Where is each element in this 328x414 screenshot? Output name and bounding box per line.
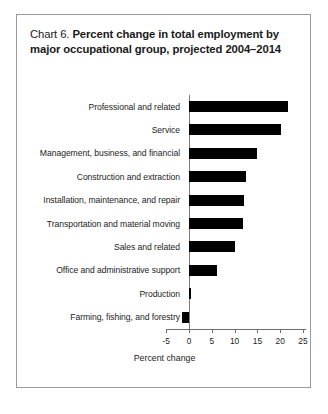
bar-row (17, 95, 312, 118)
bars-container (17, 95, 312, 330)
bar-row (17, 282, 312, 305)
bar-row (17, 165, 312, 188)
axis-tick (303, 329, 304, 333)
bar-row (17, 235, 312, 258)
bar-row (17, 142, 312, 165)
bar-row (17, 212, 312, 235)
bar (189, 241, 235, 252)
bar (189, 148, 257, 159)
axis-tick-label: 10 (223, 336, 247, 346)
bar-row (17, 306, 312, 329)
bar (189, 288, 191, 299)
bar (189, 218, 243, 229)
bar (189, 124, 281, 135)
axis-tick (235, 329, 236, 333)
axis-tick-label: 5 (200, 336, 224, 346)
bar (189, 171, 246, 182)
value-axis-title: Percent change (17, 353, 312, 363)
axis-tick-label: 0 (177, 336, 201, 346)
bar (189, 195, 244, 206)
value-axis-line (166, 329, 306, 330)
axis-tick (257, 329, 258, 333)
axis-tick-label: -5 (154, 336, 178, 346)
bar-row (17, 189, 312, 212)
plot-area: Professional and relatedServiceManagemen… (17, 15, 312, 389)
bar-row (17, 259, 312, 282)
bar (189, 101, 288, 112)
axis-tick-label: 20 (268, 336, 292, 346)
bar-row (17, 118, 312, 141)
bar (182, 312, 189, 323)
axis-tick (166, 329, 167, 333)
bar (189, 265, 217, 276)
axis-tick (280, 329, 281, 333)
axis-tick-label: 25 (291, 336, 315, 346)
axis-tick (189, 329, 190, 333)
axis-tick (212, 329, 213, 333)
axis-tick-label: 15 (245, 336, 269, 346)
chart-frame: Chart 6. Percent change in total employm… (16, 14, 311, 388)
